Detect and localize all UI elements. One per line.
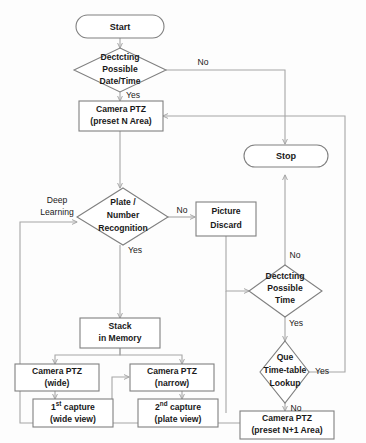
node-picture-discard-line2: Discard xyxy=(210,220,242,230)
node-start[interactable]: Start xyxy=(76,15,164,38)
edge-label-datetime-yes: Yes xyxy=(126,90,140,100)
node-capture-1-line2: (wide view) xyxy=(50,414,96,424)
node-plate-rec-line3: Recognition xyxy=(98,223,148,233)
edge-label-plate-yes: Yes xyxy=(128,245,142,255)
node-plate-rec-line2: Number xyxy=(107,210,140,220)
edge-stack-to-ptz-wide xyxy=(55,348,120,364)
node-stack-line1: Stack xyxy=(109,321,132,331)
node-detect-time-line2: Possible xyxy=(267,283,303,293)
node-capture-2-line2: (plate view) xyxy=(155,414,202,424)
node-que-line1: Que xyxy=(277,352,294,362)
edge-label-time-no: No xyxy=(290,250,301,260)
node-ptz-preset-n-line2: (preset N Area) xyxy=(90,116,151,126)
node-ptz-preset-n[interactable]: Camera PTZ (preset N Area) xyxy=(79,101,163,131)
node-stop-label: Stop xyxy=(276,151,297,161)
node-que-timetable-lookup[interactable]: Que Time-table Lookup xyxy=(260,341,309,403)
edge-detect-datetime-no-to-stop xyxy=(166,70,285,144)
node-detect-time-line1: Dectcting xyxy=(265,271,304,281)
edge-label-que-yes: Yes xyxy=(315,366,329,376)
node-ptz-narrow-line1: Camera PTZ xyxy=(147,366,197,376)
edge-label-que-no: No xyxy=(291,403,302,413)
node-ptz-n1-line2: (preset N+1 Area) xyxy=(251,425,322,435)
node-detect-datetime-line2: Possible xyxy=(102,64,138,74)
flowchart-canvas: Start Dectcting Possible Date/Time Camer… xyxy=(0,0,366,443)
node-ptz-preset-n1[interactable]: Camera PTZ (preset N+1 Area) xyxy=(240,411,334,439)
edge-label-deep-learning-line2: Learning xyxy=(40,207,74,217)
edge-label-datetime-no: No xyxy=(198,57,209,67)
edge-label-deep-learning-line1: Deep xyxy=(47,195,68,205)
node-detect-datetime[interactable]: Dectcting Possible Date/Time xyxy=(74,48,166,92)
edge-picture-discard-to-detect-time xyxy=(226,236,249,291)
flowchart-svg: Start Dectcting Possible Date/Time Camer… xyxy=(0,0,366,443)
node-capture-1[interactable]: 1st capture (wide view) xyxy=(33,399,113,427)
node-picture-discard-line1: Picture xyxy=(211,206,240,216)
node-ptz-preset-n-line1: Camera PTZ xyxy=(96,104,146,114)
node-capture-2[interactable]: 2nd capture (plate view) xyxy=(138,399,218,427)
node-que-line3: Lookup xyxy=(269,378,300,388)
node-detect-datetime-line3: Date/Time xyxy=(100,76,141,86)
node-ptz-n1-line1: Camera PTZ xyxy=(262,413,312,423)
node-ptz-wide[interactable]: Camera PTZ (wide) xyxy=(15,364,99,391)
node-que-line2: Time-table xyxy=(264,365,307,375)
node-detect-time-line3: Time xyxy=(275,295,295,305)
node-ptz-narrow-line2: (narrow) xyxy=(155,378,190,388)
node-ptz-wide-line1: Camera PTZ xyxy=(32,366,82,376)
node-ptz-narrow[interactable]: Camera PTZ (narrow) xyxy=(130,364,214,391)
node-detect-time[interactable]: Dectcting Possible Time xyxy=(249,265,322,317)
node-stop[interactable]: Stop xyxy=(244,145,328,167)
edge-label-plate-no: No xyxy=(177,205,188,215)
node-ptz-wide-line2: (wide) xyxy=(45,378,70,388)
node-plate-number-recognition[interactable]: Plate / Number Recognition xyxy=(77,188,168,245)
node-stack-in-memory[interactable]: Stack in Memory xyxy=(80,318,160,348)
node-stack-line2: in Memory xyxy=(99,333,142,343)
node-plate-rec-line1: Plate / xyxy=(110,197,136,207)
node-picture-discard[interactable]: Picture Discard xyxy=(196,202,256,236)
edge-stack-to-ptz-narrow xyxy=(120,348,182,364)
edge-label-time-yes: Yes xyxy=(289,318,303,328)
node-detect-datetime-line1: Dectcting xyxy=(100,52,139,62)
node-start-label: Start xyxy=(110,22,131,32)
